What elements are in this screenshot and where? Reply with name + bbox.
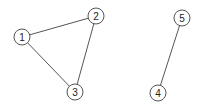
nodes-layer: 12345	[14, 8, 190, 101]
edge-5-4	[158, 18, 182, 93]
node-4: 4	[150, 85, 166, 101]
node-label: 5	[179, 13, 185, 24]
graph-diagram: 12345	[0, 0, 200, 108]
node-5: 5	[174, 10, 190, 26]
edge-1-2	[22, 16, 96, 37]
edges-layer	[22, 16, 182, 93]
node-2: 2	[88, 8, 104, 24]
edge-2-3	[75, 16, 96, 92]
node-1: 1	[14, 29, 30, 45]
node-label: 4	[155, 88, 161, 99]
node-label: 2	[93, 11, 99, 22]
node-label: 1	[19, 32, 25, 43]
node-3: 3	[67, 84, 83, 100]
node-label: 3	[72, 87, 78, 98]
edge-1-3	[22, 37, 75, 92]
